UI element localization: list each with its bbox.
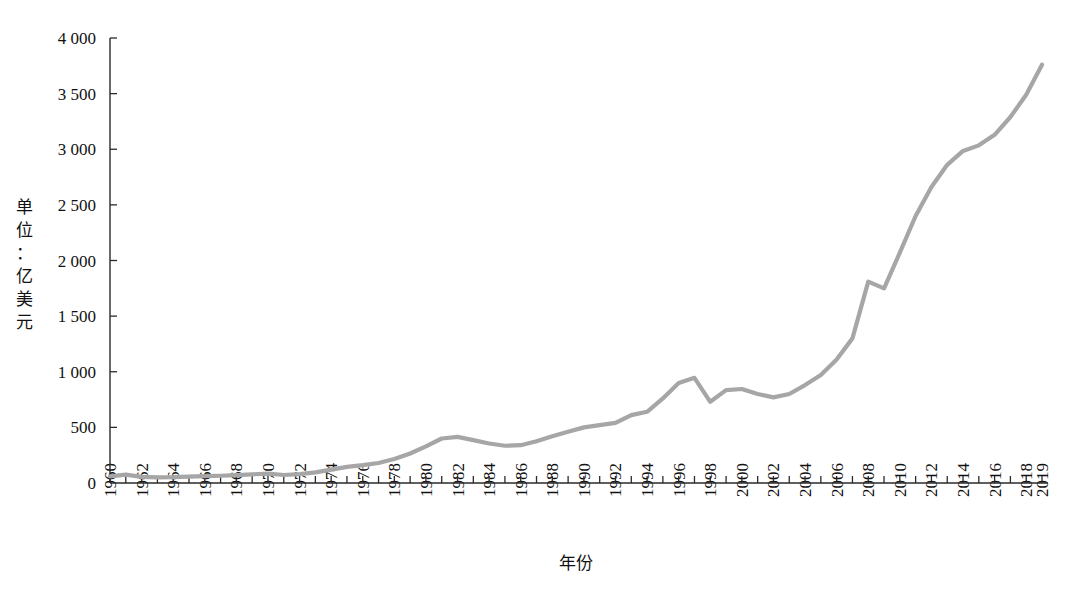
y-tick-label: 2 500 <box>58 196 96 215</box>
y-tick-label: 3 000 <box>58 140 96 159</box>
line-chart: 05001 0001 5002 0002 5003 0003 5004 000 … <box>0 0 1076 593</box>
y-tick-label: 2 000 <box>58 252 96 271</box>
y-axis-tick-labels: 05001 0001 5002 0002 5003 0003 5004 000 <box>58 29 96 493</box>
y-tick-label: 4 000 <box>58 29 96 48</box>
y-tick-label: 1 000 <box>58 363 96 382</box>
y-tick-label: 1 500 <box>58 307 96 326</box>
x-axis-tick-labels: 1960196219641966196819701972197419761978… <box>101 463 1052 498</box>
chart-container: 单 位 ： 亿 美 元 05001 0001 5002 0002 5003 00… <box>0 0 1076 593</box>
y-tick-label: 0 <box>88 474 97 493</box>
x-axis-title: 年份 <box>559 554 593 573</box>
y-axis-tick-marks <box>110 38 117 427</box>
y-tick-label: 3 500 <box>58 85 96 104</box>
y-tick-label: 500 <box>71 418 97 437</box>
data-series-line <box>110 65 1042 478</box>
